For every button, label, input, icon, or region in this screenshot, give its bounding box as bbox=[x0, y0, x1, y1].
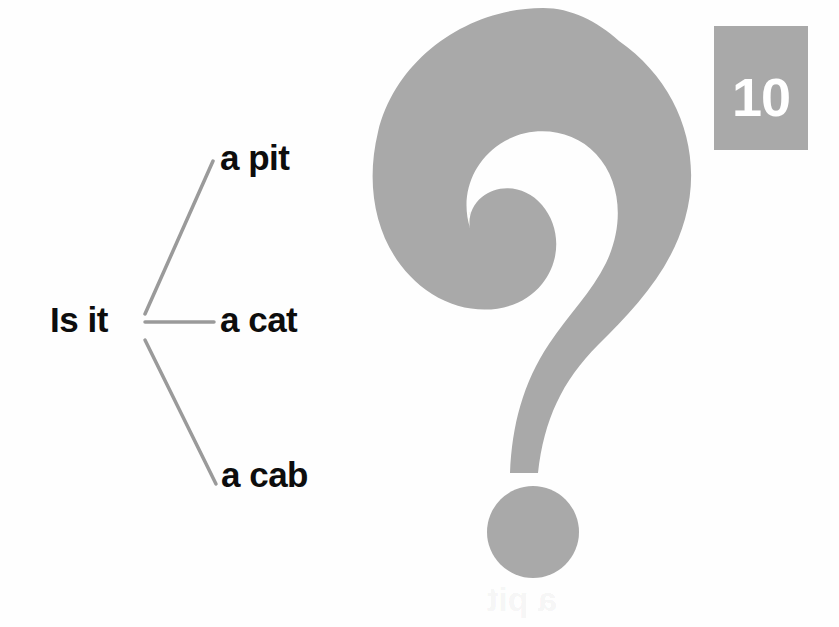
connector-line-to-option-2 bbox=[145, 340, 216, 484]
page-number-badge: 10 bbox=[714, 26, 808, 150]
question-mark-icon bbox=[360, 0, 730, 600]
worksheet-page: a pit a pit 10 Is it a pit a cat a cab bbox=[0, 0, 839, 627]
diagram-option-a-cab: a cab bbox=[221, 455, 308, 495]
word-choice-diagram: Is it a pit a cat a cab bbox=[0, 0, 370, 627]
diagram-root-label: Is it bbox=[50, 300, 108, 340]
question-mark-dot bbox=[487, 486, 579, 578]
diagram-option-a-cat: a cat bbox=[220, 300, 297, 340]
connector-line-to-option-0 bbox=[145, 161, 213, 314]
page-number-text: 10 bbox=[732, 70, 790, 124]
diagram-option-a-pit: a pit bbox=[220, 138, 289, 178]
